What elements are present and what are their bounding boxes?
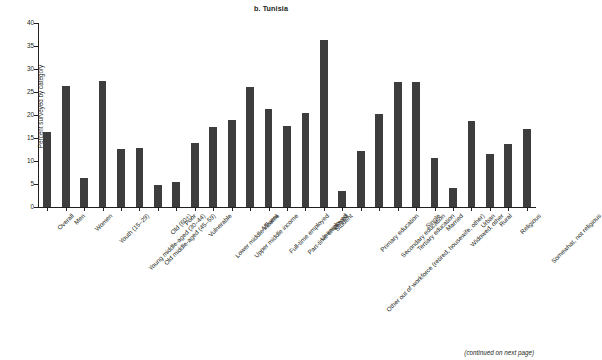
bar: [320, 40, 328, 207]
y-tick-label: 15: [16, 135, 34, 141]
x-tick-mark: [84, 207, 85, 211]
bar: [117, 149, 125, 207]
x-tick-mark: [490, 207, 491, 211]
plot-area: Percent surveyed by category 05101520253…: [0, 0, 542, 230]
y-tick-label: 0: [16, 204, 34, 210]
x-tick-mark: [269, 207, 270, 211]
x-tick-mark: [471, 207, 472, 211]
y-tick-label: 40: [16, 20, 34, 26]
x-axis-tick-labels: OverallMenWomenYouth (15–29)Young middle…: [0, 212, 542, 342]
x-tick-mark: [66, 207, 67, 211]
y-tick-label: 35: [16, 43, 34, 49]
y-tick-mark: [34, 207, 38, 208]
x-tick-mark: [379, 207, 380, 211]
bar: [468, 121, 476, 207]
x-tick-mark: [195, 207, 196, 211]
x-tick-mark: [287, 207, 288, 211]
bar: [357, 151, 365, 207]
x-tick-mark: [342, 207, 343, 211]
x-tick-mark: [361, 207, 362, 211]
x-tick-mark: [305, 207, 306, 211]
bar: [191, 143, 199, 207]
y-tick-label: 30: [16, 66, 34, 72]
x-tick-label: Men: [72, 212, 86, 226]
bar: [412, 82, 420, 207]
x-tick-label: Religious: [519, 212, 542, 235]
x-tick-label: Youth (15–29): [117, 212, 150, 245]
bar: [375, 114, 383, 207]
bar: [136, 148, 144, 207]
x-tick-mark: [324, 207, 325, 211]
bar-series: [38, 23, 536, 207]
bar: [486, 154, 494, 207]
x-tick-mark: [232, 207, 233, 211]
bar: [302, 113, 310, 207]
bar: [43, 132, 51, 207]
bar: [283, 126, 291, 207]
bar: [154, 185, 162, 207]
bar: [431, 158, 439, 207]
y-axis-tick-labels: 0510152025303540: [14, 0, 34, 230]
x-tick-mark: [435, 207, 436, 211]
x-tick-label: Women: [93, 212, 113, 232]
y-tick-label: 20: [16, 112, 34, 118]
bar: [80, 178, 88, 207]
x-tick-mark: [213, 207, 214, 211]
bar: [209, 127, 217, 207]
x-tick-mark: [47, 207, 48, 211]
y-tick-label: 5: [16, 181, 34, 187]
bar: [338, 191, 346, 207]
x-tick-mark: [508, 207, 509, 211]
x-tick-mark: [103, 207, 104, 211]
x-tick-label: Overall: [56, 212, 75, 231]
bar: [449, 188, 457, 207]
x-tick-mark: [250, 207, 251, 211]
x-tick-mark: [453, 207, 454, 211]
y-tick-label: 25: [16, 89, 34, 95]
bar: [265, 109, 273, 207]
y-tick-label: 10: [16, 158, 34, 164]
x-tick-mark: [158, 207, 159, 211]
x-tick-mark: [416, 207, 417, 211]
bar: [246, 87, 254, 207]
bar: [394, 82, 402, 207]
x-tick-label: Somewhat, not religious: [549, 212, 601, 264]
bar: [99, 81, 107, 207]
x-tick-mark: [527, 207, 528, 211]
bar: [172, 182, 180, 207]
bar: [504, 144, 512, 207]
bar: [228, 120, 236, 207]
x-tick-mark: [398, 207, 399, 211]
bar: [523, 129, 531, 207]
x-tick-mark: [176, 207, 177, 211]
bar: [62, 86, 70, 207]
continued-note: (continued on next page): [464, 349, 534, 356]
x-tick-mark: [139, 207, 140, 211]
x-tick-mark: [121, 207, 122, 211]
